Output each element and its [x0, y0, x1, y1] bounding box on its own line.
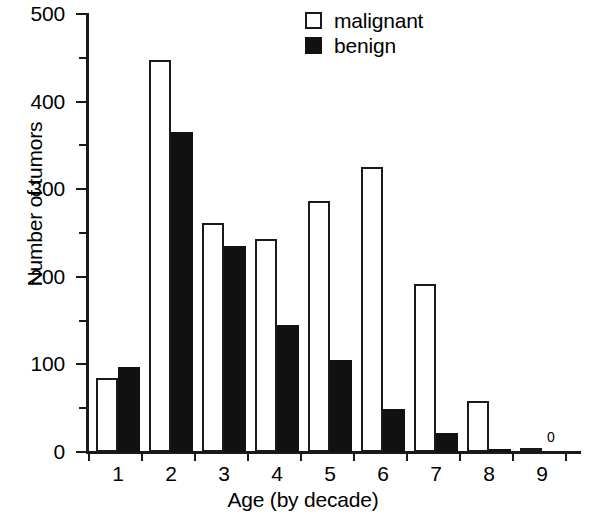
chart-legend: malignantbenign	[305, 8, 423, 58]
x-axis-tick	[141, 452, 143, 461]
y-axis-tick-label: 100	[31, 353, 65, 374]
bar-malignant-decade-6	[361, 167, 383, 452]
legend-item-label: malignant	[334, 10, 423, 31]
x-axis-tick-label: 5	[310, 462, 350, 485]
bar-malignant-decade-1	[96, 378, 118, 452]
legend-item-benign: benign	[305, 33, 423, 58]
bar-benign-decade-3	[224, 246, 246, 452]
x-axis-tick-label: 6	[363, 462, 403, 485]
x-axis-tick	[88, 452, 90, 461]
bar-benign-decade-8	[489, 449, 511, 453]
y-axis-minor-tick	[79, 57, 88, 59]
y-axis-major-tick	[76, 101, 88, 103]
bar-malignant-decade-8	[467, 401, 489, 452]
y-axis-minor-tick	[79, 320, 88, 322]
bar-benign-decade-1	[118, 367, 140, 452]
plot-area	[88, 14, 588, 452]
bar-malignant-decade-2	[149, 60, 171, 452]
x-axis-tick-label: 2	[151, 462, 191, 485]
bar-benign-decade-6	[383, 409, 405, 452]
x-axis-tick	[512, 452, 514, 461]
bar-malignant-decade-5	[308, 201, 330, 452]
bar-malignant-decade-9	[520, 448, 542, 452]
y-axis-title: Number of tumors	[24, 64, 46, 344]
bar-chart-figure: 0100200300400500 123456789 Number of tum…	[0, 0, 612, 518]
y-axis-minor-tick	[79, 144, 88, 146]
filled-square-icon	[305, 37, 322, 54]
y-axis-tick-label: 500	[31, 3, 65, 24]
bar-malignant-decade-3	[202, 223, 224, 453]
bar-benign-decade-2	[171, 132, 193, 452]
x-axis-tick	[300, 452, 302, 461]
x-axis-tick-label: 9	[522, 462, 562, 485]
x-axis-tick	[459, 452, 461, 461]
x-axis-tick-label: 4	[257, 462, 297, 485]
bar-benign-decade-4	[277, 325, 299, 452]
x-axis-tick-label: 7	[416, 462, 456, 485]
x-axis-tick-label: 3	[204, 462, 244, 485]
bar-malignant-decade-7	[414, 284, 436, 452]
x-axis-tick	[247, 452, 249, 461]
x-axis-tick	[406, 452, 408, 461]
y-axis-major-tick	[76, 451, 88, 453]
x-axis-title: Age (by decade)	[88, 489, 518, 511]
y-axis-major-tick	[76, 276, 88, 278]
y-axis-tick-label: 0	[54, 441, 65, 462]
x-axis-tick	[194, 452, 196, 461]
bar-benign-decade-7	[436, 433, 458, 452]
x-axis-tick-label: 8	[469, 462, 509, 485]
y-axis-minor-tick	[79, 232, 88, 234]
x-axis-tick	[565, 452, 567, 461]
x-axis-tick	[353, 452, 355, 461]
legend-item-label: benign	[334, 35, 396, 56]
y-axis-major-tick	[76, 188, 88, 190]
y-axis-major-tick	[76, 13, 88, 15]
x-axis-tick-label: 1	[98, 462, 138, 485]
zero-value-annotation: 0	[547, 430, 555, 444]
bar-benign-decade-5	[330, 360, 352, 452]
bar-malignant-decade-4	[255, 239, 277, 452]
open-square-icon	[305, 12, 322, 29]
y-axis-major-tick	[76, 363, 88, 365]
legend-item-malignant: malignant	[305, 8, 423, 33]
y-axis-minor-tick	[79, 407, 88, 409]
